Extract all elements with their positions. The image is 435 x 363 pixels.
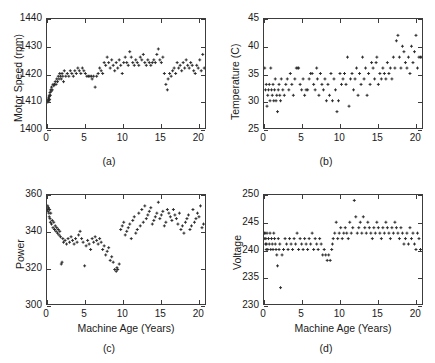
panel-d: Voltage Machine Age (Years) (d) 05101520… bbox=[217, 182, 435, 363]
panel-d-data-point bbox=[332, 237, 335, 240]
panel-b-data-point bbox=[367, 72, 370, 75]
panel-a-x-tick-mark bbox=[123, 124, 124, 128]
panel-a-x-tick-mark bbox=[161, 124, 162, 128]
panel-c-data-point bbox=[83, 264, 86, 267]
panel-c-data-point bbox=[164, 221, 167, 224]
panel-c-data-point bbox=[134, 232, 137, 235]
panel-d-x-tick-mark bbox=[264, 300, 265, 304]
panel-d-data-point bbox=[269, 232, 272, 235]
panel-c-data-point bbox=[70, 235, 73, 238]
panel-d-data-point bbox=[314, 237, 317, 240]
panel-d-data-point bbox=[293, 237, 296, 240]
panel-b-y-tick-mark bbox=[418, 75, 422, 76]
panel-a-x-tick-mark bbox=[47, 124, 48, 128]
panel-d-data-point bbox=[274, 243, 277, 246]
panel-d-data-point bbox=[402, 243, 405, 246]
panel-c-data-point bbox=[67, 237, 70, 240]
panel-b-y-tick-mark bbox=[264, 102, 268, 103]
panel-d-data-point bbox=[356, 232, 359, 235]
panel-d-x-tick-label: 0 bbox=[248, 309, 278, 319]
panel-c-data-point bbox=[106, 250, 109, 253]
panel-b-data-point bbox=[375, 61, 378, 64]
panel-d-data-point bbox=[327, 253, 330, 256]
panel-c-data-point bbox=[88, 243, 91, 246]
panel-d-data-point bbox=[350, 232, 353, 235]
panel-a-y-tick-label: 1440 bbox=[2, 13, 42, 23]
panel-c-data-point bbox=[79, 230, 82, 233]
panel-a-data-point bbox=[110, 58, 113, 61]
panel-d-data-point bbox=[418, 237, 421, 240]
panel-d-data-point bbox=[271, 243, 274, 246]
panel-d-data-point bbox=[278, 243, 281, 246]
panel-c-y-tick-label: 360 bbox=[2, 189, 42, 199]
panel-a-data-point bbox=[151, 61, 154, 64]
panel-a-data-point bbox=[131, 61, 134, 64]
panel-a-data-point bbox=[155, 53, 158, 56]
panel-a-data-point bbox=[81, 67, 84, 70]
panel-a-x-tick-label: 0 bbox=[31, 133, 61, 143]
panel-a-data-point bbox=[182, 61, 185, 64]
panel-d-data-point bbox=[357, 226, 360, 229]
panel-c-data-point bbox=[80, 237, 83, 240]
panel-b-y-tick-mark bbox=[264, 130, 268, 131]
panel-a-data-point bbox=[189, 61, 192, 64]
panel-a-data-point bbox=[95, 75, 98, 78]
panel-b-data-point bbox=[357, 94, 360, 97]
panel-c: Power Machine Age (Years) (c) 0510152030… bbox=[0, 182, 218, 363]
panel-b-data-point bbox=[389, 67, 392, 70]
panel-b-data-point bbox=[355, 67, 358, 70]
panel-d-y-tick-label: 245 bbox=[219, 217, 259, 227]
panel-a-x-tick-mark bbox=[85, 124, 86, 128]
panel-d-data-point bbox=[372, 226, 375, 229]
panel-c-x-tick-label: 5 bbox=[69, 309, 99, 319]
panel-c-data-point bbox=[202, 223, 205, 226]
panel-b-data-point bbox=[407, 56, 410, 59]
panel-d-data-point bbox=[380, 237, 383, 240]
panel-c-y-tick-mark bbox=[47, 232, 51, 233]
panel-a-x-tick-label: 10 bbox=[107, 133, 137, 143]
panel-c-y-tick-mark bbox=[47, 269, 51, 270]
panel-a-data-point bbox=[116, 67, 119, 70]
panel-d-data-point bbox=[377, 226, 380, 229]
panel-c-data-point bbox=[151, 223, 154, 226]
panel-c-data-point bbox=[89, 248, 92, 251]
panel-b-y-tick-mark bbox=[418, 19, 422, 20]
panel-b-data-point bbox=[366, 94, 369, 97]
panel-a-data-point bbox=[62, 80, 65, 83]
panel-a-data-point bbox=[142, 53, 145, 56]
panel-a-data-point bbox=[171, 69, 174, 72]
panel-a-y-tick-mark bbox=[201, 75, 205, 76]
panel-b-data-point bbox=[274, 77, 277, 80]
panel-b-data-point bbox=[272, 83, 275, 86]
panel-a-data-point bbox=[183, 67, 186, 70]
panel-c-data-point bbox=[191, 208, 194, 211]
panel-b-data-point bbox=[275, 99, 278, 102]
panel-a-scatter-points bbox=[47, 19, 205, 128]
panel-b-data-point bbox=[398, 56, 401, 59]
panel-d-data-point bbox=[297, 248, 300, 251]
panel-d-data-point bbox=[387, 232, 390, 235]
panel-a-data-point bbox=[145, 64, 148, 67]
panel-a: Motor Speed (rpm) (a) 051015201400141014… bbox=[0, 0, 218, 182]
panel-b-data-point bbox=[402, 50, 405, 53]
panel-d-data-point bbox=[287, 248, 290, 251]
panel-b-data-point bbox=[286, 77, 289, 80]
panel-b-data-point bbox=[323, 77, 326, 80]
panel-d-data-point bbox=[318, 237, 321, 240]
panel-a-data-point bbox=[60, 77, 63, 80]
panel-c-x-tick-mark bbox=[85, 300, 86, 304]
panel-b-y-tick-mark bbox=[418, 130, 422, 131]
panel-a-data-point bbox=[97, 72, 100, 75]
panel-a-data-point bbox=[76, 67, 79, 70]
panel-d-data-point bbox=[401, 232, 404, 235]
panel-a-data-point bbox=[201, 53, 204, 56]
panel-b-data-point bbox=[325, 99, 328, 102]
panel-b-data-point bbox=[267, 88, 270, 91]
panel-a-y-tick-mark bbox=[201, 47, 205, 48]
panel-d-data-point bbox=[366, 221, 369, 224]
panel-b-data-point bbox=[264, 88, 267, 91]
panel-d-caption: (d) bbox=[217, 342, 435, 354]
panel-b-y-tick-label: 40 bbox=[219, 41, 259, 51]
panel-b-data-point bbox=[316, 77, 319, 80]
panel-c-y-tick-mark bbox=[201, 195, 205, 196]
